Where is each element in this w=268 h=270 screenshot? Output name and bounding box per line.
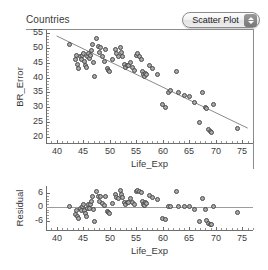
x-minor-tick: [211, 228, 212, 230]
x-tick: [83, 227, 84, 230]
x-tick-label: 65: [177, 233, 201, 243]
x-minor-tick: [142, 228, 143, 230]
y-minor-tick: [47, 215, 49, 216]
y-minor-tick: [47, 218, 49, 219]
scatter-chart-br-error: 20253035404550554045505560657075BR_Error…: [0, 28, 268, 170]
x-minor-tick: [200, 228, 201, 230]
x-minor-tick: [237, 228, 238, 230]
data-point[interactable]: [89, 199, 94, 204]
x-minor-tick: [168, 228, 169, 230]
data-point[interactable]: [163, 217, 168, 222]
data-point[interactable]: [197, 219, 202, 224]
x-axis-line: [46, 230, 253, 231]
data-point[interactable]: [107, 211, 112, 216]
data-point[interactable]: [84, 214, 89, 219]
x-minor-tick: [226, 228, 227, 230]
x-minor-tick: [147, 228, 148, 230]
data-point[interactable]: [150, 66, 155, 71]
x-tick: [163, 227, 164, 230]
chevron-down-icon: [248, 21, 254, 24]
x-minor-tick: [248, 228, 249, 230]
y-axis-label: BR_Error: [14, 67, 25, 107]
data-point[interactable]: [174, 189, 179, 194]
data-point[interactable]: [168, 204, 173, 209]
data-point[interactable]: [209, 222, 214, 227]
x-minor-tick: [184, 228, 185, 230]
data-point[interactable]: [84, 65, 89, 70]
y-tick: [47, 193, 50, 194]
plot-type-dropdown-label: Scatter Plot: [183, 15, 244, 25]
y-minor-tick: [47, 201, 49, 202]
data-point[interactable]: [182, 204, 187, 209]
data-point[interactable]: [192, 207, 197, 212]
x-tick: [189, 227, 190, 230]
data-point[interactable]: [91, 207, 96, 212]
data-point[interactable]: [132, 202, 137, 207]
x-minor-tick: [115, 228, 116, 230]
x-minor-tick: [205, 228, 206, 230]
x-minor-tick: [62, 228, 63, 230]
data-point[interactable]: [132, 68, 137, 73]
x-tick-label: 60: [151, 233, 175, 243]
residual-chart: -6064045505560657075ResidualLife_Exp: [0, 182, 268, 270]
x-minor-tick: [221, 228, 222, 230]
page-title: Countries: [26, 14, 70, 25]
x-minor-tick: [88, 228, 89, 230]
x-tick: [136, 227, 137, 230]
data-point[interactable]: [200, 196, 205, 201]
x-minor-tick: [120, 228, 121, 230]
x-tick: [110, 227, 111, 230]
data-point[interactable]: [211, 102, 216, 107]
data-point[interactable]: [235, 210, 240, 215]
y-minor-tick: [47, 212, 49, 213]
x-minor-tick: [152, 228, 153, 230]
x-tick: [57, 227, 58, 230]
x-tick-label: 70: [204, 233, 228, 243]
data-point[interactable]: [182, 93, 187, 98]
x-minor-tick: [78, 228, 79, 230]
data-point[interactable]: [235, 126, 240, 131]
stepper-updown-icon[interactable]: [244, 14, 257, 27]
data-point[interactable]: [110, 201, 115, 206]
data-point[interactable]: [163, 105, 168, 110]
x-tick-label: 75: [230, 233, 254, 243]
data-point[interactable]: [203, 207, 208, 212]
data-point[interactable]: [155, 197, 160, 202]
data-point[interactable]: [176, 204, 181, 209]
x-minor-tick: [195, 228, 196, 230]
x-axis-label: Life_Exp: [46, 158, 253, 169]
x-minor-tick: [104, 228, 105, 230]
x-axis-label: Life_Exp: [46, 245, 253, 256]
data-point[interactable]: [150, 195, 155, 200]
data-point[interactable]: [76, 216, 81, 221]
data-point[interactable]: [102, 59, 107, 64]
data-point[interactable]: [139, 190, 144, 195]
x-minor-tick: [67, 228, 68, 230]
data-point[interactable]: [92, 219, 97, 224]
data-point[interactable]: [103, 47, 108, 52]
data-point[interactable]: [144, 201, 149, 206]
data-point[interactable]: [103, 194, 108, 199]
data-point[interactable]: [211, 204, 216, 209]
data-point[interactable]: [92, 74, 97, 79]
y-minor-tick: [47, 196, 49, 197]
data-point[interactable]: [88, 53, 93, 58]
plot-type-dropdown[interactable]: Scatter Plot: [182, 12, 260, 28]
data-point[interactable]: [67, 204, 72, 209]
x-minor-tick: [232, 228, 233, 230]
x-minor-tick: [94, 228, 95, 230]
y-minor-tick: [47, 221, 49, 222]
y-minor-tick: [47, 199, 49, 200]
data-point[interactable]: [187, 204, 192, 209]
x-tick-label: 45: [71, 233, 95, 243]
y-minor-tick: [47, 204, 49, 205]
x-tick: [242, 227, 243, 230]
x-tick: [216, 227, 217, 230]
x-tick-label: 40: [45, 233, 69, 243]
data-point[interactable]: [174, 69, 179, 74]
x-minor-tick: [253, 228, 254, 230]
data-point[interactable]: [200, 90, 205, 95]
x-minor-tick: [131, 228, 132, 230]
data-point[interactable]: [90, 194, 95, 199]
y-axis-label: Residual: [14, 190, 25, 227]
